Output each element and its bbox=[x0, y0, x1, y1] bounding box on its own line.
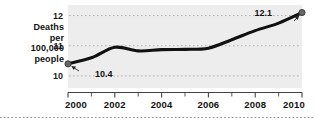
y-tick-label-11: 11 bbox=[53, 41, 63, 51]
x-tick-label-2008: 2008 bbox=[244, 99, 266, 110]
chart-container: Deaths per 100,000 people 101112 2000200… bbox=[0, 0, 315, 121]
marker-2000 bbox=[65, 61, 71, 67]
x-axis: 200020022004200620082010 bbox=[65, 93, 305, 111]
x-tick-label-2000: 2000 bbox=[65, 99, 87, 110]
annotation-label-10.4: 10.4 bbox=[95, 69, 113, 79]
annotation-label-12.1: 12.1 bbox=[254, 8, 272, 18]
x-tick-label-2010: 2010 bbox=[283, 99, 305, 110]
y-axis-tick-labels: 101112 bbox=[53, 11, 63, 81]
y-tick-label-12: 12 bbox=[53, 11, 63, 21]
x-tick-label-2006: 2006 bbox=[197, 99, 219, 110]
x-tick-label-2002: 2002 bbox=[104, 99, 126, 110]
line-chart: 101112 200020022004200620082010 10.412.1 bbox=[0, 0, 315, 121]
x-tick-label-2004: 2004 bbox=[151, 99, 173, 110]
x-axis-ticks bbox=[68, 93, 302, 98]
marker-2010 bbox=[299, 9, 305, 15]
y-tick-label-10: 10 bbox=[53, 71, 63, 81]
x-axis-tick-labels: 200020022004200620082010 bbox=[65, 99, 305, 110]
